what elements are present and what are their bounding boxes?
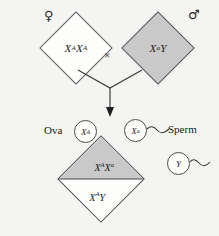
ovum-circle: XA bbox=[74, 120, 97, 143]
cross-arrow-icon bbox=[76, 68, 144, 118]
sperm-tail-icon-2 bbox=[189, 158, 211, 170]
genetics-cross-diagram: ♀ XAXA × ♂ XaY Ova XA Xa Sperm Y bbox=[0, 0, 219, 236]
sperm-label: Sperm bbox=[168, 123, 197, 135]
sperm-y-circle: Y bbox=[167, 152, 190, 175]
ova-label: Ova bbox=[44, 124, 62, 136]
sperm-tail-icon bbox=[146, 125, 170, 137]
venus-symbol: ♀ bbox=[44, 9, 54, 22]
sperm-y-letter: Y bbox=[176, 159, 181, 169]
offspring-genotype-carrier-daughter: XAXa bbox=[82, 162, 126, 173]
female-parent-genotype: XAXA bbox=[51, 23, 101, 73]
male-genotype-x: X bbox=[150, 42, 157, 54]
male-parent-genotype: XaY bbox=[133, 23, 183, 73]
carrier-sup2: a bbox=[111, 161, 114, 168]
son-letter2: Y bbox=[99, 192, 105, 203]
female-genotype-x1: X bbox=[65, 42, 72, 54]
offspring-punnett-square: XAXa XAY bbox=[57, 135, 145, 223]
male-genotype-y: Y bbox=[160, 42, 166, 54]
offspring-genotype-normal-son: XAY bbox=[75, 192, 119, 203]
sperm-xa-circle: Xa bbox=[124, 119, 147, 142]
female-genotype-x2: X bbox=[76, 42, 83, 54]
offspring-diagonal-divider bbox=[59, 137, 144, 222]
mars-symbol: ♂ bbox=[188, 8, 200, 21]
cross-multiplication-symbol: × bbox=[104, 49, 110, 61]
sperm-xa-letter: X bbox=[131, 126, 137, 136]
